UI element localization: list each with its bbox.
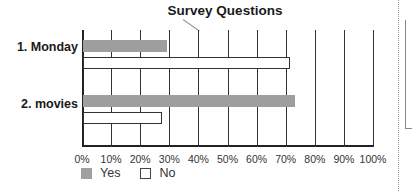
gridline [315, 30, 316, 147]
gridline [169, 30, 170, 147]
bar-yes-2 [83, 95, 295, 107]
page-divider [398, 0, 399, 191]
plot-area [82, 30, 373, 147]
x-tick-label: 10% [101, 153, 122, 165]
legend-label-yes: Yes [100, 166, 120, 180]
gridline [257, 30, 258, 147]
chart-title: Survey Questions [140, 3, 310, 18]
gridline [228, 30, 229, 147]
legend: Yes No [81, 166, 195, 180]
gridline [198, 30, 199, 147]
x-tick-label: 50% [217, 153, 238, 165]
x-tick-label: 90% [333, 153, 354, 165]
legend-label-no: No [159, 166, 175, 180]
x-tick-label: 70% [275, 153, 296, 165]
legend-item-no: No [140, 166, 175, 180]
x-tick-label: 0% [74, 153, 89, 165]
bar-yes-1 [83, 40, 167, 52]
adjacent-panel-edge [405, 20, 412, 129]
category-label-movies: 2. movies [0, 97, 78, 111]
gridline [373, 30, 374, 147]
x-tick-label: 20% [130, 153, 151, 165]
x-tick-label: 80% [304, 153, 325, 165]
bar-no-1 [83, 57, 290, 69]
legend-item-yes: Yes [81, 166, 120, 180]
legend-swatch-yes [81, 168, 92, 179]
category-label-monday: 1. Monday [0, 40, 78, 54]
gridline [286, 30, 287, 147]
x-tick-label: 40% [188, 153, 209, 165]
x-tick-label: 30% [159, 153, 180, 165]
x-tick-label: 100% [360, 153, 387, 165]
bar-no-2 [83, 112, 162, 124]
x-tick-label: 60% [246, 153, 267, 165]
legend-swatch-no [140, 168, 151, 179]
gridline [344, 30, 345, 147]
